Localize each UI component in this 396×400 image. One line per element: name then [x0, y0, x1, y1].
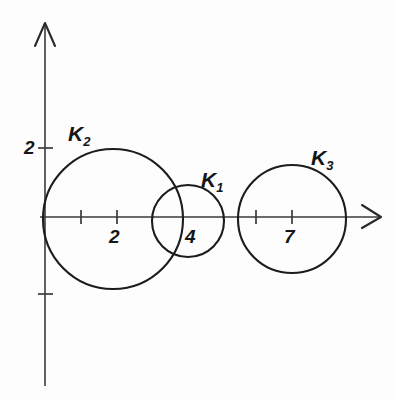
y-axis-label-2: 2 [24, 137, 34, 159]
diagram-canvas [0, 0, 396, 400]
circle-label-K3: K3 [311, 146, 333, 173]
x-axis-label-4: 4 [185, 226, 195, 248]
x-axis-label-2: 2 [109, 226, 119, 248]
circle-label-K2-subscript: 2 [83, 134, 90, 149]
circle-label-K2-base: K [68, 122, 83, 145]
x-axis-label-7: 7 [284, 226, 294, 248]
circle-label-K2: K2 [68, 122, 90, 149]
circle-label-K3-base: K [311, 146, 326, 169]
circle-label-K3-subscript: 3 [326, 158, 333, 173]
circle-label-K1: K1 [201, 168, 223, 195]
circle-K2 [43, 149, 183, 289]
circles-diagram: 2 2 4 7 K2 K1 K3 [0, 0, 396, 400]
circle-label-K1-subscript: 1 [216, 180, 223, 195]
circle-label-K1-base: K [201, 168, 216, 191]
